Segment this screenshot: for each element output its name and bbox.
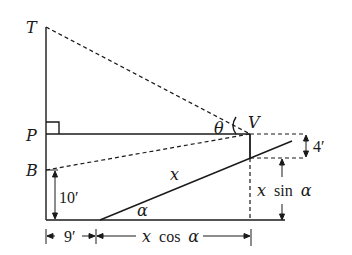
arrow-right-icon (244, 234, 250, 239)
arrow-up-icon (304, 135, 309, 141)
xcos-alpha: α (188, 227, 199, 246)
label-p: P (25, 126, 37, 145)
arrow-left-icon (97, 234, 103, 239)
label-four-feet: 4′ (313, 138, 325, 155)
label-t: T (26, 18, 38, 37)
label-ten-feet: 10′ (59, 189, 79, 206)
label-hypotenuse-x: x (170, 165, 179, 184)
xsin-alpha: α (301, 181, 312, 200)
label-alpha: α (137, 201, 148, 220)
xsin-x: x (257, 181, 266, 200)
arrow-down-icon (53, 213, 58, 219)
line-bv-dashed (46, 134, 250, 170)
label-x-cos-alpha: x cos α (142, 227, 199, 246)
label-b: B (25, 161, 38, 180)
label-theta: θ (214, 119, 224, 138)
label-nine-feet: 9′ (64, 228, 76, 245)
right-angle-marker (46, 122, 59, 134)
arrow-right-icon (89, 234, 95, 239)
xsin-fn: sin (274, 182, 293, 199)
arrow-down-icon (280, 214, 285, 220)
xcos-fn: cos (159, 228, 180, 245)
line-tv-dashed (46, 27, 250, 134)
label-v: V (248, 113, 261, 132)
arrow-up-icon (53, 171, 58, 177)
label-x-sin-alpha: x sin α (257, 181, 312, 200)
arrow-left-icon (47, 234, 53, 239)
geometry-diagram: T P B V θ α x 10′ 9′ 4′ x cos α x sin α (0, 0, 352, 255)
xcos-x: x (142, 227, 151, 246)
arrow-down-icon (304, 151, 309, 157)
arrow-up-icon (280, 159, 285, 165)
